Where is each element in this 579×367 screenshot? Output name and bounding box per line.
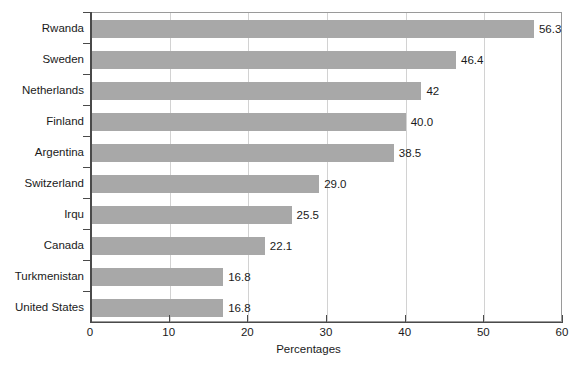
category-label: Rwanda bbox=[0, 21, 84, 35]
x-axis-tick bbox=[169, 315, 170, 323]
x-axis-tick bbox=[405, 315, 406, 323]
x-axis-tick-label: 50 bbox=[477, 325, 490, 339]
category-label: Switzerland bbox=[0, 176, 84, 190]
bar bbox=[91, 82, 421, 100]
y-axis-tick bbox=[83, 43, 91, 44]
category-label: Canada bbox=[0, 238, 84, 252]
x-axis-title: Percentages bbox=[0, 342, 579, 356]
y-axis-tick bbox=[83, 260, 91, 261]
y-axis-tick bbox=[83, 74, 91, 75]
bar bbox=[91, 144, 394, 162]
x-axis-tick-label: 60 bbox=[556, 325, 569, 339]
bar bbox=[91, 206, 292, 224]
bar-value-label: 16.8 bbox=[228, 301, 250, 315]
bar-value-label: 16.8 bbox=[228, 270, 250, 284]
plot-area: 56.346.44240.038.529.025.522.116.816.8 bbox=[90, 12, 562, 322]
bar-value-label: 46.4 bbox=[461, 53, 483, 67]
x-axis-tick bbox=[483, 315, 484, 323]
x-axis-tick bbox=[90, 315, 91, 323]
category-label: Turkmenistan bbox=[0, 269, 84, 283]
bar-value-label: 29.0 bbox=[324, 177, 346, 191]
category-label: Finland bbox=[0, 114, 84, 128]
bar-value-label: 42 bbox=[426, 84, 439, 98]
x-axis-tick-label: 30 bbox=[320, 325, 333, 339]
gridline bbox=[484, 13, 485, 321]
y-axis-tick bbox=[83, 136, 91, 137]
x-axis-title-text: Percentages bbox=[276, 342, 341, 356]
x-axis-tick-label: 0 bbox=[87, 325, 93, 339]
x-axis-tick-label: 40 bbox=[398, 325, 411, 339]
bar bbox=[91, 268, 223, 286]
bar-value-label: 25.5 bbox=[297, 208, 319, 222]
category-label: Netherlands bbox=[0, 83, 84, 97]
bar bbox=[91, 299, 223, 317]
bar-chart: 56.346.44240.038.529.025.522.116.816.8 R… bbox=[0, 0, 579, 367]
y-axis-tick bbox=[83, 12, 91, 13]
y-axis-tick bbox=[83, 167, 91, 168]
bar-value-label: 38.5 bbox=[399, 146, 421, 160]
bar-value-label: 22.1 bbox=[270, 239, 292, 253]
bar bbox=[91, 51, 456, 69]
x-axis-tick bbox=[247, 315, 248, 323]
bar-value-label: 40.0 bbox=[411, 115, 433, 129]
bar bbox=[91, 237, 265, 255]
x-axis-tick-label: 20 bbox=[241, 325, 254, 339]
y-axis-tick bbox=[83, 198, 91, 199]
bar bbox=[91, 175, 319, 193]
y-axis-tick bbox=[83, 229, 91, 230]
category-label: Irqu bbox=[0, 207, 84, 221]
category-label: Sweden bbox=[0, 52, 84, 66]
bar bbox=[91, 20, 534, 38]
bar bbox=[91, 113, 406, 131]
category-label: United States bbox=[0, 300, 84, 314]
x-axis-tick bbox=[562, 315, 563, 323]
y-axis-tick bbox=[83, 105, 91, 106]
x-axis-tick bbox=[326, 315, 327, 323]
bar-value-label: 56.3 bbox=[539, 22, 561, 36]
y-axis-tick bbox=[83, 291, 91, 292]
category-label: Argentina bbox=[0, 145, 84, 159]
x-axis-tick-label: 10 bbox=[162, 325, 175, 339]
